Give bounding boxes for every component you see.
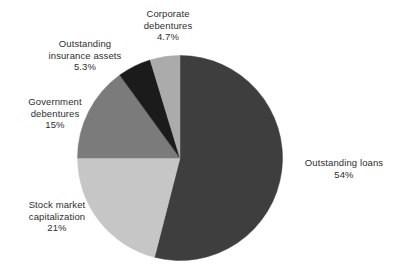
slice-label-line1: Corporate [126,8,210,20]
slice-label-line2: debentures [8,108,102,120]
slice-label-outstanding-loans: Outstanding loans 54% [294,157,394,180]
slice-label-government-debentures: Government debentures 15% [8,96,102,131]
slice-label-line1: Outstanding loans [294,157,394,169]
pie-chart-graphic [77,55,283,261]
slice-label-line2: debentures [126,20,210,32]
slice-label-line1: Stock market [8,199,106,211]
slice-label-line1: Outstanding [32,38,138,50]
slice-label-value: 4.7% [126,31,210,43]
slice-label-outstanding-insurance-assets: Outstanding insurance assets 5.3% [32,38,138,73]
slice-label-value: 21% [8,222,106,234]
slice-label-value: 54% [294,169,394,181]
slice-label-line2: insurance assets [32,50,138,62]
slice-label-line2: capitalization [8,211,106,223]
slice-label-value: 5.3% [32,61,138,73]
pie-svg [77,55,283,261]
slice-label-line1: Government [8,96,102,108]
pie-slices-group [78,56,283,261]
slice-label-value: 15% [8,119,102,131]
slice-label-corporate-debentures: Corporate debentures 4.7% [126,8,210,43]
slice-label-stock-market-capitalization: Stock market capitalization 21% [8,199,106,234]
pie-chart-figure: Corporate debentures 4.7% Outstanding in… [0,0,398,280]
